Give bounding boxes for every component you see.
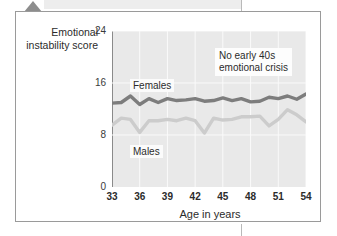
- x-axis-title: Age in years: [112, 208, 308, 220]
- column-divider-bottom: [241, 224, 242, 236]
- y-tick-label: 24: [80, 26, 106, 36]
- x-tick-label: 42: [182, 192, 208, 202]
- x-tick-label: 33: [99, 192, 125, 202]
- y-tick-label: 0: [80, 182, 106, 192]
- chart-annotation-line-2: emotional crisis: [219, 62, 288, 74]
- x-tick-label: 51: [265, 192, 291, 202]
- x-tick-label: 54: [293, 192, 319, 202]
- y-tick-label: 16: [80, 78, 106, 88]
- chart-annotation-line-1: No early 40s: [219, 50, 288, 62]
- figure-frame: Emotional instability score Females Male…: [15, 11, 321, 222]
- x-tick-label: 39: [154, 192, 180, 202]
- x-tick-label: 36: [127, 192, 153, 202]
- series-label-males: Males: [130, 145, 163, 158]
- page-top-strip: [44, 0, 242, 9]
- x-tick-label: 48: [238, 192, 264, 202]
- y-tick-label: 8: [80, 130, 106, 140]
- chart-annotation: No early 40s emotional crisis: [215, 48, 292, 76]
- series-label-females: Females: [130, 79, 174, 92]
- x-tick-label: 45: [210, 192, 236, 202]
